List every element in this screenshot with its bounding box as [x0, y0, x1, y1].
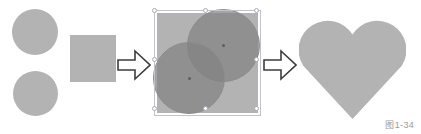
source-circle-top: [12, 9, 58, 55]
stage-result-heart: [299, 13, 406, 119]
stage-composite-shapes: [157, 13, 258, 113]
right-arrow-icon: [117, 49, 151, 81]
source-circle-bottom: [13, 71, 58, 116]
circle-center-dot-bottom-left: [188, 77, 191, 80]
right-arrow-icon: [263, 49, 297, 81]
source-square: [70, 35, 116, 82]
figure-caption: 图1-34: [385, 118, 414, 131]
figure-illustration: 图1-34: [0, 0, 421, 134]
circle-center-dot-top-right: [222, 44, 225, 47]
